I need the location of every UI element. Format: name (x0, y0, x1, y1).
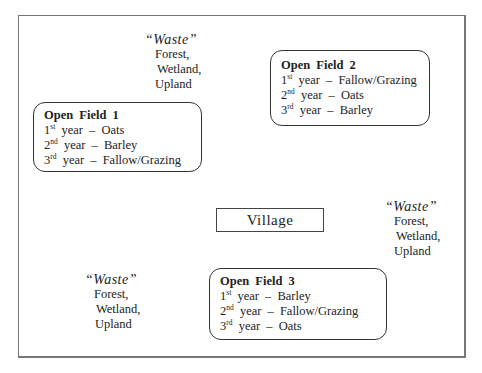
field-title: Open Field 1 (44, 108, 193, 123)
waste-line: Wetland, (85, 302, 140, 317)
field-row: 3rd year – Oats (220, 319, 378, 334)
village-box: Village (216, 208, 324, 232)
field-row: 2nd year – Fallow/Grazing (220, 304, 378, 319)
waste-title: “Waste” (145, 32, 201, 47)
field-row: 2nd year – Barley (44, 138, 193, 153)
open-field-3: Open Field 3 1st year – Barley 2nd year … (209, 268, 387, 340)
waste-line: Upland (85, 317, 140, 332)
field-row: 3rd year – Barley (281, 103, 421, 118)
field-row: 3rd year – Fallow/Grazing (44, 153, 193, 168)
waste-title: “Waste” (385, 199, 440, 214)
waste-line: Forest, (385, 214, 440, 229)
field-title: Open Field 3 (220, 274, 378, 289)
field-row: 1st year – Fallow/Grazing (281, 73, 421, 88)
open-field-2: Open Field 2 1st year – Fallow/Grazing 2… (270, 50, 430, 126)
field-row: 1st year – Oats (44, 123, 193, 138)
waste-line: Upland (145, 77, 201, 92)
waste-area-top: “Waste” Forest, Wetland, Upland (145, 32, 201, 92)
waste-area-bottom-left: “Waste” Forest, Wetland, Upland (85, 272, 140, 332)
open-field-1: Open Field 1 1st year – Oats 2nd year – … (33, 102, 202, 172)
field-row: 1st year – Barley (220, 289, 378, 304)
waste-title: “Waste” (85, 272, 140, 287)
waste-line: Forest, (85, 287, 140, 302)
waste-line: Forest, (145, 47, 201, 62)
waste-line: Wetland, (385, 229, 440, 244)
waste-line: Wetland, (145, 62, 201, 77)
field-row: 2nd year – Oats (281, 88, 421, 103)
waste-area-right: “Waste” Forest, Wetland, Upland (385, 199, 440, 259)
waste-line: Upland (385, 244, 440, 259)
field-title: Open Field 2 (281, 58, 421, 73)
